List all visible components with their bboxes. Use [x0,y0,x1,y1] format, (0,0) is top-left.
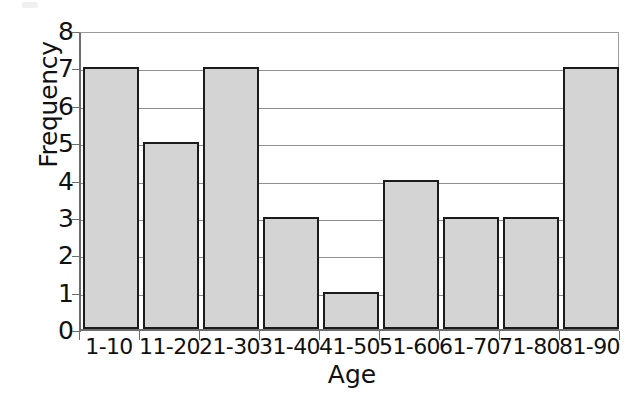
y-axis-tick-labels: 012345678 [50,0,74,398]
bar [443,217,499,329]
x-tick-label: 71-80 [499,336,559,358]
x-tick-label: 51-60 [379,336,439,358]
y-tick-label: 5 [52,131,74,156]
y-tick-label: 3 [52,206,74,231]
x-tick-label: 31-40 [259,336,319,358]
y-tick-label: 7 [52,56,74,81]
x-tick-label: 11-20 [139,336,199,358]
y-tick-label: 8 [52,19,74,44]
x-tick-label: 1-10 [79,336,139,358]
y-tick-label: 0 [52,318,74,343]
bar [143,142,199,329]
bar [323,292,379,329]
y-tick-label: 6 [52,94,74,119]
bar [83,67,139,329]
bar [383,180,439,330]
x-tick-label: 81-90 [559,336,619,358]
x-tick-label: 61-70 [439,336,499,358]
x-axis-title-text: Age [328,360,376,389]
plot-area [79,32,619,331]
y-tick-label: 4 [52,169,74,194]
bar [563,67,619,329]
x-axis-title: Age [0,360,632,389]
bars-layer [81,33,618,329]
x-tick-label: 21-30 [199,336,259,358]
y-tick-label: 1 [52,281,74,306]
histogram-chart: Frequency 012345678 1-1011-2021-3031-404… [0,0,632,398]
bar [263,217,319,329]
x-tick-label: 41-50 [319,336,379,358]
bar [503,217,559,329]
y-tick-label: 2 [52,243,74,268]
bar [203,67,259,329]
